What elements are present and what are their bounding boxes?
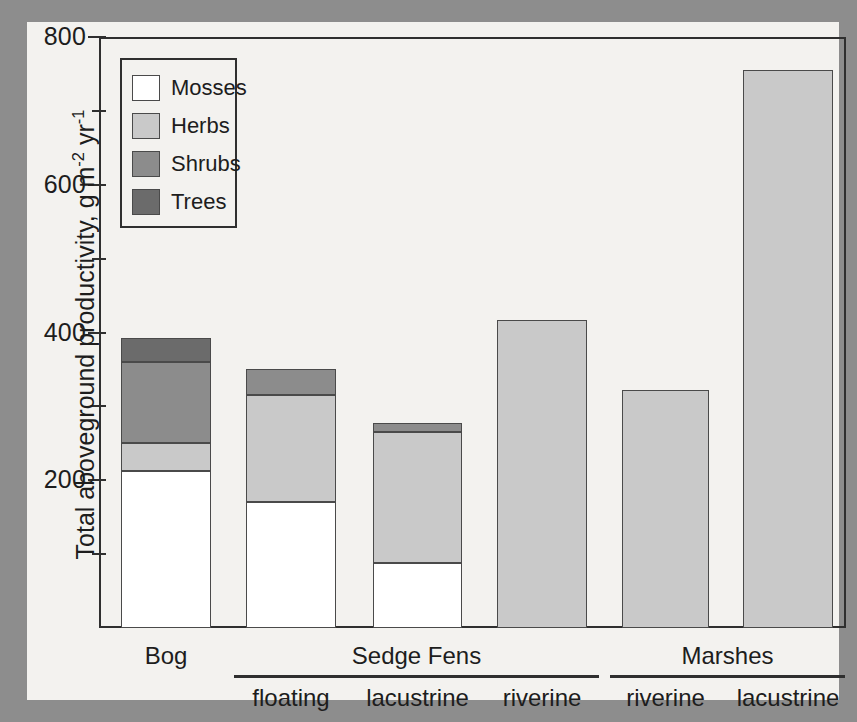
x-group-label-sedge-fens: Sedge Fens xyxy=(267,642,567,670)
bar-segment-marsh-lacustrine-herbs[interactable] xyxy=(743,70,833,628)
legend-label-shrubs: Shrubs xyxy=(171,151,241,177)
x-group-rule xyxy=(610,675,845,678)
y-axis-tick-label: 800 xyxy=(26,24,86,49)
legend-swatch-shrubs xyxy=(132,151,160,177)
bar-segment-fen-riverine-herbs[interactable] xyxy=(497,320,587,628)
y-axis-title-exponent-1: -2 xyxy=(69,152,87,167)
bar-segment-fen-floating-herbs[interactable] xyxy=(246,395,336,502)
legend-row-trees[interactable]: Trees xyxy=(132,183,235,221)
chart-legend: MossesHerbsShrubsTrees xyxy=(120,58,237,228)
legend-label-trees: Trees xyxy=(171,189,226,215)
bar-segment-bog-shrubs[interactable] xyxy=(121,362,211,443)
bar-segment-fen-floating-mosses[interactable] xyxy=(246,502,336,628)
bar-fen-floating[interactable] xyxy=(246,37,336,628)
bar-segment-fen-lacustrine-herbs[interactable] xyxy=(373,432,462,563)
x-sub-label-marsh-lacustrine: lacustrine xyxy=(678,684,857,712)
bar-fen-lacustrine[interactable] xyxy=(373,37,462,628)
bar-segment-marsh-riverine-herbs[interactable] xyxy=(622,390,709,628)
x-group-label-marshes: Marshes xyxy=(578,642,857,670)
legend-swatch-trees xyxy=(132,189,160,215)
legend-label-mosses: Mosses xyxy=(171,75,247,101)
legend-row-shrubs[interactable]: Shrubs xyxy=(132,145,235,183)
figure-chart: 800600400200 Total aboveground productiv… xyxy=(0,0,857,722)
legend-swatch-mosses xyxy=(132,75,160,101)
bar-segment-fen-floating-shrubs[interactable] xyxy=(246,369,336,395)
bar-marsh-riverine[interactable] xyxy=(622,37,709,628)
legend-row-mosses[interactable]: Mosses xyxy=(132,69,235,107)
bar-marsh-lacustrine[interactable] xyxy=(743,37,833,628)
y-axis-title-mid: yr xyxy=(71,124,99,152)
bar-segment-bog-mosses[interactable] xyxy=(121,471,211,628)
bar-segment-bog-trees[interactable] xyxy=(121,338,211,362)
legend-row-herbs[interactable]: Herbs xyxy=(132,107,235,145)
legend-label-herbs: Herbs xyxy=(171,113,230,139)
legend-swatch-herbs xyxy=(132,113,160,139)
x-axis-labels: BogSedge FensMarshesfloatinglacustrineri… xyxy=(0,628,857,722)
y-axis-title: Total aboveground productivity, g m-2 yr… xyxy=(71,55,100,615)
bar-segment-fen-lacustrine-shrubs[interactable] xyxy=(373,423,462,433)
y-axis-title-exponent-2: -1 xyxy=(69,110,87,125)
y-axis-title-main: Total aboveground productivity, g m xyxy=(71,167,99,560)
bar-fen-riverine[interactable] xyxy=(497,37,587,628)
x-group-rule xyxy=(234,675,599,678)
bar-segment-fen-lacustrine-mosses[interactable] xyxy=(373,563,462,628)
bar-segment-bog-herbs[interactable] xyxy=(121,443,211,471)
